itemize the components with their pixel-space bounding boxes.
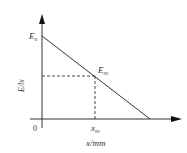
y-axis-title: E/lx [17,79,26,93]
xtheta-label: xθ0 [90,123,100,134]
x-axis-title: x/mm [85,138,106,148]
etheta-label: Eθ0 [97,65,109,76]
origin-label: 0 [33,124,37,133]
e0-label: E0 [28,31,38,42]
data-line [42,36,150,119]
y-axis-arrow-icon [39,14,45,24]
line-chart: E0 Eθ0 xθ0 0 x/mm E/lx [0,0,187,153]
x-axis-arrow-icon [171,116,182,122]
